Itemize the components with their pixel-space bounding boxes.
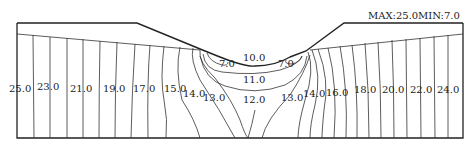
label-17: 17.0 [133,83,155,94]
label-12: 12.0 [243,94,265,105]
water-table-line [17,34,463,50]
label-14-left: 14.0 [183,88,205,99]
label-23: 23.0 [37,81,59,92]
label-11: 11.0 [243,74,265,85]
min-label: MIN:7.0 [418,10,460,21]
label-16: 16.0 [326,87,348,98]
label-20: 20.0 [382,84,404,95]
label-7-right: 7.0 [278,58,294,69]
label-13-left: 13.0 [203,92,225,103]
contour-diagram: MAX:25.0 MIN:7.0 [0,0,473,151]
label-24: 24.0 [437,84,459,95]
label-7-left: 7.0 [219,58,235,69]
label-25: 25.0 [9,83,31,94]
label-18: 18.0 [354,84,376,95]
ground-surface [17,23,463,66]
label-22: 22.0 [410,84,432,95]
label-10: 10.0 [243,52,265,63]
max-label: MAX:25.0 [368,10,418,21]
label-14-right: 14.0 [303,88,325,99]
label-19: 19.0 [103,83,125,94]
contour-labels: 25.0 23.0 21.0 19.0 17.0 15.0 14.0 13.0 … [9,52,459,105]
label-13-right: 13.0 [281,92,303,103]
label-21: 21.0 [70,83,92,94]
